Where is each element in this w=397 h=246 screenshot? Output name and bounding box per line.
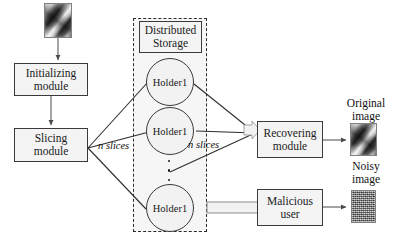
caption-noisy-image-line2: image bbox=[352, 173, 380, 185]
node-distributed-storage-line2: Storage bbox=[153, 37, 188, 49]
node-slicing-module-line1: Slicing bbox=[35, 132, 68, 144]
diagram-canvas: Initializing module Slicing module Distr… bbox=[0, 0, 397, 246]
original-image-thumbnail bbox=[350, 123, 377, 156]
node-recovering-module-label: Recovering module bbox=[263, 127, 316, 153]
node-initializing-module-label: Initializing module bbox=[26, 67, 76, 93]
node-malicious-user[interactable]: Malicious user bbox=[257, 189, 323, 226]
edge-label-recovering-in: n slices bbox=[188, 139, 219, 150]
node-initializing-module-line1: Initializing bbox=[26, 67, 76, 79]
node-slicing-module-line2: module bbox=[34, 145, 69, 157]
node-holder-1-label: Holder1 bbox=[153, 77, 187, 88]
caption-noisy-image-line1: Noisy bbox=[352, 160, 379, 172]
node-holder-3[interactable]: Holder1 bbox=[146, 184, 194, 232]
node-holder-1[interactable]: Holder1 bbox=[146, 58, 194, 106]
noisy-image-thumbnail bbox=[351, 190, 376, 223]
edge-label-slicing-out: n slices bbox=[98, 140, 129, 151]
node-slicing-module-label: Slicing module bbox=[34, 132, 69, 158]
node-malicious-user-line2: user bbox=[280, 208, 299, 220]
node-slicing-module[interactable]: Slicing module bbox=[14, 128, 88, 162]
holder-list-ellipsis bbox=[167, 160, 171, 181]
caption-original-image-line1: Original bbox=[347, 97, 385, 109]
node-initializing-module[interactable]: Initializing module bbox=[14, 63, 88, 96]
caption-original-image: Original image bbox=[335, 97, 397, 122]
input-image-thumbnail bbox=[44, 3, 72, 38]
node-holder-2[interactable]: Holder1 bbox=[146, 107, 194, 155]
node-malicious-user-label: Malicious user bbox=[267, 195, 313, 221]
caption-noisy-image: Noisy image bbox=[335, 160, 397, 185]
node-distributed-storage-line1: Distributed bbox=[145, 24, 197, 36]
node-initializing-module-line2: module bbox=[34, 80, 69, 92]
node-recovering-module[interactable]: Recovering module bbox=[257, 121, 323, 158]
node-malicious-user-line1: Malicious bbox=[267, 195, 313, 207]
node-holder-3-label: Holder1 bbox=[153, 203, 187, 214]
caption-original-image-line2: image bbox=[352, 110, 380, 122]
node-recovering-module-line2: module bbox=[273, 140, 308, 152]
node-distributed-storage: Distributed Storage bbox=[139, 21, 202, 53]
node-distributed-storage-label: Distributed Storage bbox=[145, 24, 197, 50]
node-recovering-module-line1: Recovering bbox=[263, 127, 316, 139]
node-holder-2-label: Holder1 bbox=[153, 126, 187, 137]
